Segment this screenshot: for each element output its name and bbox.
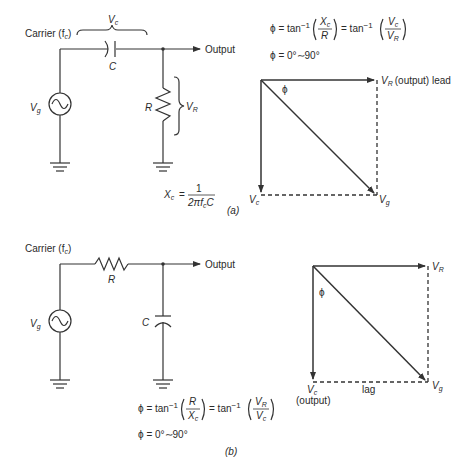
svg-text:Xc: Xc [163, 189, 175, 201]
ground-icon-a-right [153, 163, 173, 171]
carrier-label-b: Carrier (fc) [25, 243, 71, 255]
ground-icon-b-right [153, 380, 173, 388]
ac-source-icon-b [49, 310, 71, 332]
svg-text:Vc: Vc [256, 410, 267, 422]
equations-b: ϕ = tan−1 R Xc = tan−1 VR Vc ϕ = 0°∼90° … [138, 396, 274, 457]
svg-text:=: = [179, 189, 185, 200]
vc-output-note-b: (output) [296, 395, 330, 406]
phi-range-b: ϕ = 0°∼90° [138, 429, 188, 440]
svg-text:= tan−1: = tan−1 [341, 21, 373, 34]
vg-vector-b [313, 266, 425, 380]
svg-text:Xc: Xc [187, 410, 199, 422]
circuit-b: Carrier (fc) R Output Vg C [25, 243, 235, 388]
phi-equation-a: ϕ = tan−1 [270, 21, 311, 34]
svg-text:R: R [321, 30, 328, 41]
vc-phasor-label-a: Vc [249, 194, 260, 206]
resistor-label-b: R [108, 274, 115, 285]
svg-text:= tan−1: = tan−1 [209, 401, 241, 414]
caption-b: (b) [225, 446, 237, 457]
vg-phasor-label-b: Vg [432, 380, 443, 393]
output-label-a: Output [205, 44, 235, 55]
svg-text:Xc: Xc [319, 16, 331, 28]
vg-vector-a [261, 80, 374, 193]
capacitor-label-b: C [142, 317, 150, 328]
svg-text:VR: VR [387, 30, 399, 42]
phi-angle-label-a: ϕ [282, 84, 288, 95]
capacitor-label-a: C [109, 61, 117, 72]
resistor-r-series [95, 258, 128, 270]
phi-angle-label-b: ϕ [319, 287, 325, 298]
circuit-a: Carrier (fc) Vc Output C Vg [25, 14, 235, 209]
resistor-label-a: R [145, 102, 152, 113]
vr-brace [174, 77, 184, 135]
vr-phasor-label-a: VR(output) lead [381, 75, 451, 87]
svg-text:2πfcC: 2πfcC [187, 197, 215, 209]
figure-canvas: Carrier (fc) Vc Output C Vg [0, 0, 455, 461]
output-label-b: Output [205, 259, 235, 270]
vr-phasor-label-b: VR [432, 261, 444, 273]
vc-brace [77, 25, 147, 35]
ac-source-icon-a [49, 93, 71, 115]
lag-label-b: lag [362, 384, 375, 395]
svg-text:Vc: Vc [388, 16, 399, 28]
vc-label-a: Vc [108, 14, 119, 26]
source-label-b: Vg [30, 318, 41, 331]
resistor-r-shunt [156, 88, 170, 121]
phasor-diagram-b: ϕ VR Vc (output) lag Vg [296, 261, 444, 406]
xc-formula: Xc = 1 2πfcC [163, 183, 215, 209]
ground-icon-a-left [50, 163, 70, 171]
ground-icon-b-left [50, 380, 70, 388]
vr-label-a: VR [186, 101, 198, 113]
phi-range-a: ϕ = 0°∼90° [270, 50, 320, 61]
phi-equation-b: ϕ = tan−1 [138, 401, 179, 414]
svg-text:VR: VR [255, 396, 267, 408]
svg-text:R: R [189, 396, 196, 407]
svg-text:1: 1 [196, 183, 202, 194]
carrier-label-a: Carrier (fc) [25, 28, 71, 40]
caption-a: (a) [227, 205, 239, 216]
vg-phasor-label-a: Vg [379, 194, 390, 207]
equations-a: ϕ = tan−1 Xc R = tan−1 Vc VR ϕ = 0°∼90° [270, 16, 406, 61]
source-label-a: Vg [30, 102, 41, 115]
phasor-diagram-a: ϕ VR(output) lead Vc Vg (a) [227, 75, 451, 216]
